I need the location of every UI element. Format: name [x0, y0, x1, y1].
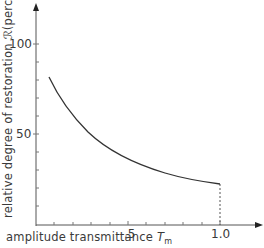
x-axis-label-text: amplitude transmittance	[6, 230, 157, 244]
chart-canvas	[0, 0, 264, 248]
y-axis-label-symbol: ℛ	[1, 30, 15, 39]
y-axis-label: relative degree of restoration ℛ(percent…	[1, 0, 15, 218]
x-axis-label: amplitude transmittance Tm	[6, 230, 172, 246]
x-axis-arrow-icon	[255, 222, 263, 228]
x-tick-label-10: 1.0	[211, 227, 230, 241]
y-axis-arrow-icon	[33, 3, 39, 11]
restoration-curve	[49, 77, 220, 184]
x-axis-label-subscript: m	[164, 237, 172, 246]
x-ticks	[54, 221, 220, 225]
y-axis-label-unit: (percent)	[1, 0, 15, 30]
y-tick-label-50: 50	[16, 127, 31, 141]
y-axis-label-text: relative degree of restoration	[1, 40, 15, 218]
